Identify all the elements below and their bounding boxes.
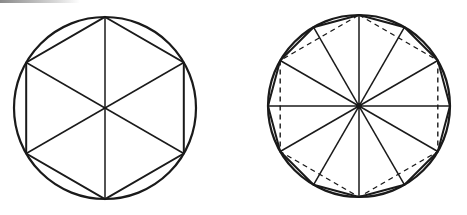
radius-line xyxy=(359,61,438,107)
radius-line xyxy=(359,106,405,185)
radius-line xyxy=(359,106,438,152)
radius-line xyxy=(314,27,360,106)
geometry-diagram xyxy=(0,0,467,215)
radius-line xyxy=(26,108,105,154)
radius-line xyxy=(314,106,360,185)
radius-line xyxy=(105,63,184,109)
radius-line xyxy=(26,63,105,109)
figure-hexagon-in-circle xyxy=(14,17,196,199)
radius-line xyxy=(105,108,184,154)
figure-dodecagon-in-circle xyxy=(268,15,450,197)
center-point xyxy=(356,103,362,109)
radius-line xyxy=(280,61,359,107)
radius-line xyxy=(359,27,405,106)
radius-line xyxy=(280,106,359,152)
